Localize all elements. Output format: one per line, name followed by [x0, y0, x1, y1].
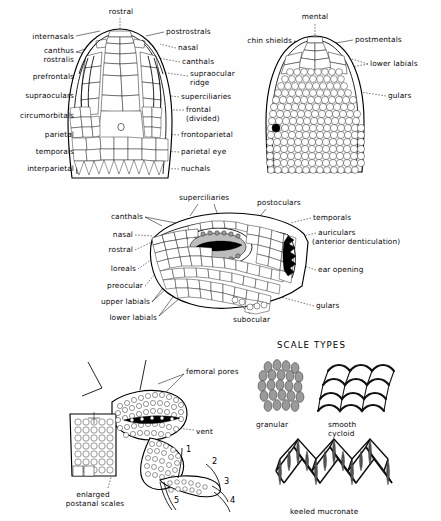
ventral-label-postmentals: postmentals — [355, 36, 402, 44]
lateral-label-lower-labials: lower labials — [97, 314, 157, 322]
dorsal-label-frontal-divided: (divided) — [186, 115, 220, 123]
dorsal-label-nuchals: nuchals — [181, 165, 210, 173]
dorsal-label-interparietal: interparietal — [0, 165, 74, 173]
ventral-label-gulars: gulars — [388, 92, 411, 100]
lateral-label-superciliaries: superciliaries — [179, 194, 229, 202]
scale-type-label-granular: granular — [256, 421, 288, 429]
lateral-label-loreals: loreals — [90, 265, 136, 273]
dorsal-label-supraocular-ridge: ridge — [190, 79, 210, 87]
lateral-label-canthals: canthals — [90, 213, 143, 221]
dorsal-label-rostral: rostral — [98, 8, 144, 16]
lateral-label-upper-labials: upper labials — [90, 298, 150, 306]
toe-number-5: 5 — [174, 495, 179, 505]
dorsal-label-parietal-eye: parietal eye — [181, 148, 226, 156]
lateral-label-temporals: temporals — [313, 214, 351, 222]
dorsal-label-internasals: internasals — [8, 33, 74, 41]
lateral-head-panel: superciliaries postoculars canthals nasa… — [90, 190, 441, 338]
ventral-head-panel: mental chin shields postmentals lower la… — [230, 0, 441, 190]
dorsal-label-frontoparietal: frontoparietal — [181, 131, 233, 139]
scale-types-panel: SCALE TYPES granular smooth cycloid keel… — [250, 335, 441, 521]
lateral-label-nasal: nasal — [90, 231, 133, 239]
scale-type-label-keeled-mucronate: keeled mucronate — [290, 508, 358, 516]
lateral-label-rostral: rostral — [90, 246, 133, 254]
vent-limb-panel: femoral pores vent enlarged postanal sca… — [0, 340, 255, 521]
lateral-label-postoculars: postoculars — [257, 199, 301, 207]
dorsal-label-circumorbitals: circumorbitals — [0, 112, 74, 120]
scale-type-label-cycloid: cycloid — [328, 430, 355, 438]
vent-label-femoral-pores-1: femoral pores — [186, 368, 239, 376]
lateral-label-preocular: preocular — [90, 282, 143, 290]
toe-number-2: 2 — [212, 456, 217, 466]
vent-label-vent: vent — [196, 428, 213, 436]
ventral-label-mental: mental — [290, 13, 340, 21]
vent-label-postanal-scales: postanal scales — [52, 500, 138, 508]
lateral-label-subocular: subocular — [233, 316, 270, 324]
ventral-label-chin-shields: chin shields — [230, 37, 292, 45]
dorsal-label-rostralis: rostralis — [8, 56, 74, 64]
scale-types-heading: SCALE TYPES — [277, 340, 346, 350]
dorsal-label-superciliaries: superciliaries — [181, 93, 231, 101]
dorsal-head-panel: rostral internasals canthus rostralis pr… — [0, 0, 235, 190]
dorsal-label-supraoculars: supraoculars — [0, 92, 74, 100]
dorsal-label-prefrontals: prefrontals — [2, 73, 74, 81]
dorsal-label-parietal: parietal — [4, 131, 74, 139]
lateral-label-ear-opening: ear opening — [318, 266, 363, 274]
toe-number-4: 4 — [230, 495, 235, 505]
lateral-label-auriculars-note: (anterior denticulation) — [312, 238, 400, 246]
toe-number-1: 1 — [186, 444, 191, 454]
toe-number-3: 3 — [224, 476, 229, 486]
dorsal-label-nasal: nasal — [178, 44, 198, 52]
dorsal-label-postrostrals: postrostrals — [166, 28, 211, 36]
ventral-label-lower-labials: lower labials — [370, 60, 418, 68]
dorsal-label-temporals: temporals — [4, 148, 74, 156]
dorsal-label-canthals: canthals — [182, 58, 214, 66]
lateral-label-gulars: gulars — [316, 302, 339, 310]
